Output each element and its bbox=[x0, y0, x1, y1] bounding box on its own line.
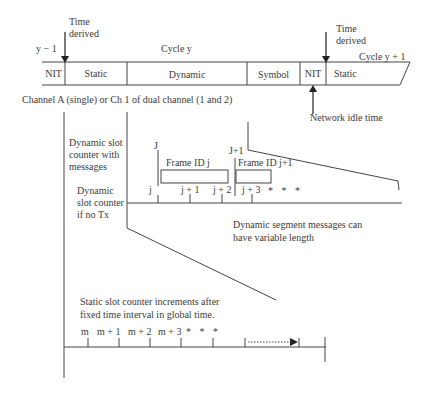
tick-m: m bbox=[81, 326, 89, 338]
static-note-line2: fixed time interval in global time. bbox=[80, 309, 214, 321]
dynamic-ellipsis: * * * bbox=[268, 185, 303, 197]
tick-j-plus-2: j + 2 bbox=[213, 184, 231, 196]
dyn-no-tx-line3: if no Tx bbox=[77, 209, 109, 221]
cycle-y-plus-1-label: Cycle y + 1 bbox=[359, 51, 405, 63]
frame-id-j-label: Frame ID j bbox=[166, 157, 210, 169]
dynamic-note-line1: Dynamic segment messages can bbox=[233, 219, 362, 231]
time-derived-left-line1: Time bbox=[69, 16, 90, 28]
network-idle-time-label: Network idle time bbox=[310, 112, 383, 124]
segment-nit-2: NIT bbox=[300, 68, 326, 80]
dyn-no-tx-line2: slot counter bbox=[77, 197, 124, 209]
dyn-with-msgs-line3: messages bbox=[69, 161, 107, 173]
time-derived-right-line2: derived bbox=[336, 35, 366, 47]
tick-m-plus-1: m + 1 bbox=[97, 326, 120, 338]
dynamic-note-line2: have variable length bbox=[233, 232, 314, 244]
dyn-with-msgs-line2: counter with bbox=[69, 149, 119, 161]
mark-j-upper: J bbox=[154, 140, 158, 152]
segment-static: Static bbox=[65, 68, 127, 80]
time-derived-right-line1: Time bbox=[336, 23, 357, 35]
tick-j: j bbox=[149, 184, 152, 196]
frame-id-j-plus-1-label: Frame ID j+1 bbox=[238, 157, 293, 169]
dyn-with-msgs-line1: Dynamic slot bbox=[69, 137, 123, 149]
tick-j-plus-3: j + 3 bbox=[242, 184, 260, 196]
static-ellipsis: * * * bbox=[186, 326, 221, 338]
dyn-no-tx-line1: Dynamic bbox=[77, 185, 114, 197]
tick-m-plus-2: m + 2 bbox=[128, 326, 151, 338]
tick-m-plus-3: m + 3 bbox=[158, 326, 181, 338]
prev-cycle-label: y − 1 bbox=[36, 43, 57, 55]
channel-caption: Channel A (single) or Ch 1 of dual chann… bbox=[22, 94, 232, 106]
mark-j-plus-1-upper: J+1 bbox=[229, 145, 244, 157]
time-derived-left-line2: derived bbox=[69, 28, 99, 40]
segment-nit: NIT bbox=[42, 68, 65, 80]
segment-static-next: Static bbox=[334, 68, 357, 80]
segment-dynamic: Dynamic bbox=[127, 69, 247, 81]
tick-j-plus-1: j + 1 bbox=[181, 184, 199, 196]
segment-symbol: Symbol bbox=[247, 69, 300, 81]
static-note-line1: Static slot counter increments after bbox=[80, 296, 219, 308]
cycle-y-label: Cycle y bbox=[161, 43, 192, 55]
